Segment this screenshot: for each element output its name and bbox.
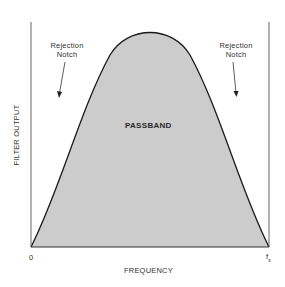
left-notch-line1: Rejection (44, 41, 90, 50)
x-axis-end-tick-sub: s (268, 257, 271, 263)
y-axis-label: FILTER OUTPUT (12, 106, 21, 166)
x-axis-start-tick: 0 (29, 253, 33, 262)
right-notch-arrowhead (234, 91, 239, 97)
left-notch-line2: Notch (44, 50, 90, 59)
right-notch-arrow (233, 62, 236, 93)
x-axis-label: FREQUENCY (124, 266, 173, 275)
x-axis-end-tick: fs (266, 252, 271, 263)
left-notch-arrowhead (57, 91, 62, 98)
left-notch-arrow (60, 62, 66, 93)
right-notch-line1: Rejection (213, 41, 259, 50)
right-notch-label: Rejection Notch (213, 41, 259, 59)
passband-label: PASSBAND (125, 121, 172, 130)
left-notch-label: Rejection Notch (44, 41, 90, 59)
right-notch-line2: Notch (213, 50, 259, 59)
